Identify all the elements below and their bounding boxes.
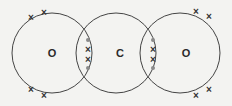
right-oxygen-label: O bbox=[182, 47, 191, 59]
lone-pair-cross: × bbox=[193, 90, 199, 101]
lone-pair-cross: × bbox=[193, 6, 199, 17]
lone-pair-cross: × bbox=[41, 7, 47, 18]
bond-dot bbox=[86, 38, 90, 42]
lone-pair-cross: × bbox=[28, 84, 34, 95]
bond-cross: × bbox=[150, 54, 156, 65]
bond-dot bbox=[151, 38, 155, 42]
left-oxygen-label: O bbox=[48, 47, 57, 59]
bond-cross: × bbox=[85, 54, 91, 65]
carbon-label: C bbox=[116, 47, 124, 59]
lone-pair-cross: × bbox=[28, 12, 34, 23]
left-oxygen-lone-pairs: × × × × bbox=[28, 7, 47, 101]
bond-dot bbox=[86, 66, 90, 70]
co2-dot-cross-diagram: O C O × × × × × × × × × × × × bbox=[0, 0, 232, 106]
lone-pair-cross: × bbox=[41, 90, 47, 101]
lone-pair-cross: × bbox=[206, 84, 212, 95]
bond-dot bbox=[151, 66, 155, 70]
lone-pair-cross: × bbox=[206, 11, 212, 22]
